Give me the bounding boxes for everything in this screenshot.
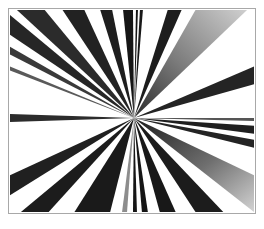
image-canvas: Radial Starburst	[0, 0, 264, 229]
artwork-frame	[8, 8, 256, 214]
radial-starburst-artwork	[9, 9, 255, 213]
